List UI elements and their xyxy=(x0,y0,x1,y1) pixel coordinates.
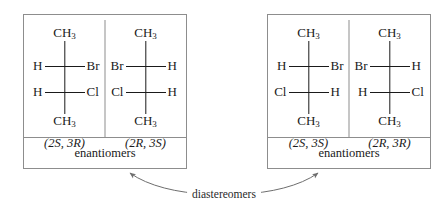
atom-label-bottom: CH3 xyxy=(297,114,320,129)
structure-cell: CH3 Br H Cl H CH3 xyxy=(105,18,186,133)
bond-horizontal-c3 xyxy=(289,92,329,93)
bond-c3-c4 xyxy=(145,92,146,114)
atom-label-top: CH3 xyxy=(297,26,320,41)
stereoisomer-group-right: CH3 H Br Cl H CH3 CH3 Br xyxy=(267,14,431,169)
atom-label-top: CH3 xyxy=(53,26,76,41)
bond-c1-c2 xyxy=(308,41,309,66)
atom-label-c2-left: H xyxy=(33,59,42,72)
group-caption: enantiomers xyxy=(268,143,430,163)
atom-label-c2-left: H xyxy=(277,59,286,72)
structure-cell: CH3 H Br Cl H CH3 xyxy=(268,18,349,133)
structure-cell: CH3 Br H H Cl CH3 xyxy=(349,18,430,133)
bond-horizontal-c2 xyxy=(45,66,85,67)
atom-label-c3-right: H xyxy=(168,85,177,98)
diastereomers-label: diastereomers xyxy=(187,187,261,201)
atom-label-c2-left: Br xyxy=(355,59,368,72)
atom-label-c2-right: Br xyxy=(87,59,100,72)
atom-label-bottom: CH3 xyxy=(378,114,401,129)
bond-c3-c4 xyxy=(64,92,65,114)
fischer-projection: CH3 Br H H Cl CH3 xyxy=(352,22,428,130)
fischer-projection: CH3 H Br H Cl CH3 xyxy=(27,22,103,130)
atom-label-c3-left: Cl xyxy=(111,85,123,98)
atom-label-top: CH3 xyxy=(378,26,401,41)
figure-canvas: CH3 H Br H Cl CH3 CH3 Br xyxy=(0,0,448,210)
atom-label-bottom: CH3 xyxy=(134,114,157,129)
bond-horizontal-c3 xyxy=(370,92,410,93)
bond-c2-c3 xyxy=(389,66,390,92)
atom-label-c2-right: H xyxy=(412,59,421,72)
bond-c2-c3 xyxy=(145,66,146,92)
structures-row-left: CH3 H Br H Cl CH3 CH3 Br xyxy=(24,18,186,133)
bond-c1-c2 xyxy=(389,41,390,66)
atom-label-c3-right: H xyxy=(331,85,340,98)
structures-row-right: CH3 H Br Cl H CH3 CH3 Br xyxy=(268,18,430,133)
atom-label-c3-left: Cl xyxy=(274,85,286,98)
atom-label-bottom: CH3 xyxy=(53,114,76,129)
bond-horizontal-c2 xyxy=(289,66,329,67)
structure-cell: CH3 H Br H Cl CH3 xyxy=(24,18,105,133)
bond-c1-c2 xyxy=(145,41,146,66)
bond-c1-c2 xyxy=(64,41,65,66)
bond-c3-c4 xyxy=(389,92,390,114)
atom-label-c2-right: H xyxy=(168,59,177,72)
stereoisomer-group-left: CH3 H Br H Cl CH3 CH3 Br xyxy=(23,14,187,169)
fischer-projection: CH3 Br H Cl H CH3 xyxy=(108,22,184,130)
bond-horizontal-c3 xyxy=(126,92,166,93)
atom-label-c3-right: Cl xyxy=(87,85,99,98)
bond-c2-c3 xyxy=(64,66,65,92)
bond-horizontal-c2 xyxy=(370,66,410,67)
atom-label-c3-left: H xyxy=(33,85,42,98)
atom-label-top: CH3 xyxy=(134,26,157,41)
bond-horizontal-c2 xyxy=(126,66,166,67)
atom-label-c2-left: Br xyxy=(111,59,124,72)
bond-c2-c3 xyxy=(308,66,309,92)
atom-label-c3-left: H xyxy=(358,85,367,98)
bond-c3-c4 xyxy=(308,92,309,114)
atom-label-c2-right: Br xyxy=(331,59,344,72)
bond-horizontal-c3 xyxy=(45,92,85,93)
atom-label-c3-right: Cl xyxy=(412,85,424,98)
fischer-projection: CH3 H Br Cl H CH3 xyxy=(271,22,347,130)
group-caption: enantiomers xyxy=(24,143,186,163)
